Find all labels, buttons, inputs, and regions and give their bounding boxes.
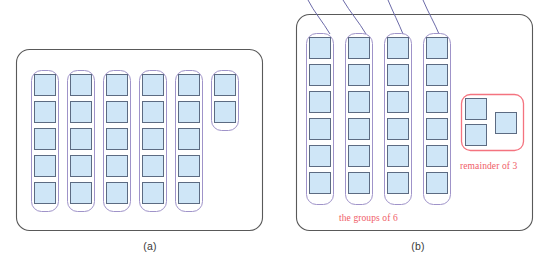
figure-root: the groups of 6 remainder of 3 (a) (b) (0, 0, 547, 265)
panel-b-group-4-square-5 (427, 146, 448, 167)
panel-b-group-3-square-6 (388, 173, 409, 194)
panel-a-group-3-square-4 (107, 156, 128, 177)
panel-a-group-1-square-5 (35, 183, 56, 204)
panel-b-group-1-square-5 (310, 146, 331, 167)
panel-b-group-1-square-1 (310, 38, 331, 59)
panel-a-group-4-square-5 (143, 183, 164, 204)
panel-a-group-2-square-2 (71, 102, 92, 123)
panel-b-group-2-square-2 (349, 65, 370, 86)
panel-b-group-1-square-6 (310, 173, 331, 194)
groups-of-6-label: the groups of 6 (339, 213, 398, 223)
panel-b-group-2-square-4 (349, 119, 370, 140)
panel-a-group-2-square-1 (71, 75, 92, 96)
panel-a-group-4-square-3 (143, 129, 164, 150)
panel-b-group-1-square-2 (310, 65, 331, 86)
panel-b-group-2-square-5 (349, 146, 370, 167)
panel-b-group-3-square-3 (388, 92, 409, 113)
panel-a-remainder-square-2 (215, 102, 236, 123)
panel-b-group-1-square-3 (310, 92, 331, 113)
panel-a (17, 50, 263, 231)
panel-a-remainder-square-1 (215, 75, 236, 96)
panel-b-group-3-square-1 (388, 38, 409, 59)
panel-b-group-3-square-5 (388, 146, 409, 167)
panel-b-group-4-square-6 (427, 173, 448, 194)
panel-a-group-4-square-2 (143, 102, 164, 123)
panel-b (297, 0, 533, 231)
panel-b-remainder-square-3 (496, 113, 517, 134)
figure-canvas (0, 0, 547, 265)
panel-b-group-4-square-2 (427, 65, 448, 86)
panel-b-remainder-square-2 (466, 125, 487, 146)
panel-a-caption: (a) (110, 240, 190, 252)
panel-b-group-2-square-1 (349, 38, 370, 59)
panel-a-group-5-square-1 (179, 75, 200, 96)
panel-a-group-4-square-4 (143, 156, 164, 177)
panel-b-group-4-square-4 (427, 119, 448, 140)
panel-a-group-3-square-1 (107, 75, 128, 96)
panel-b-group-3-square-4 (388, 119, 409, 140)
panel-a-group-4-square-1 (143, 75, 164, 96)
panel-a-group-5-square-5 (179, 183, 200, 204)
panel-a-group-3-square-5 (107, 183, 128, 204)
panel-b-group-2-square-3 (349, 92, 370, 113)
panel-a-group-5-square-3 (179, 129, 200, 150)
remainder-of-3-label: remainder of 3 (460, 161, 517, 171)
panel-a-group-5-square-4 (179, 156, 200, 177)
panel-a-group-2-square-5 (71, 183, 92, 204)
panel-a-group-2-square-4 (71, 156, 92, 177)
panel-b-group-2-square-6 (349, 173, 370, 194)
panel-a-group-3-square-3 (107, 129, 128, 150)
panel-b-group-3-square-2 (388, 65, 409, 86)
panel-a-group-1-square-2 (35, 102, 56, 123)
panel-b-remainder-square-1 (466, 99, 487, 120)
panel-a-group-5-square-2 (179, 102, 200, 123)
panel-a-group-1-square-3 (35, 129, 56, 150)
panel-b-group-4-square-1 (427, 38, 448, 59)
panel-b-group-1-square-4 (310, 119, 331, 140)
panel-b-caption: (b) (378, 240, 458, 252)
panel-a-group-1-square-4 (35, 156, 56, 177)
panel-b-group-4-square-3 (427, 92, 448, 113)
panel-a-group-2-square-3 (71, 129, 92, 150)
panel-a-group-1-square-1 (35, 75, 56, 96)
panel-a-group-3-square-2 (107, 102, 128, 123)
